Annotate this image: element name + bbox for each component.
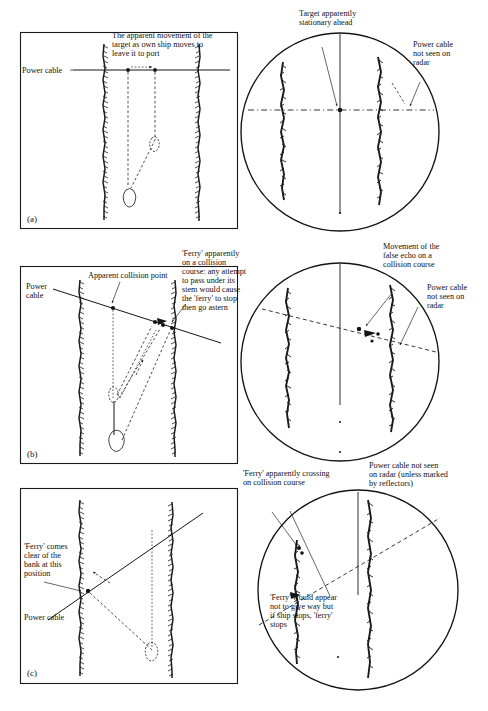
relative-track-a-2 [131, 72, 155, 188]
panel-a-plan-frame [21, 33, 238, 229]
panel-a-apparent-movement-label: The apparent movement of the target as o… [112, 31, 213, 58]
svg-text:stationary ahead: stationary ahead [299, 18, 352, 27]
svg-text:Movement of the: Movement of the [383, 242, 440, 251]
collision-point-echo-b [111, 306, 115, 310]
svg-text:false echo on a: false echo on a [383, 251, 432, 260]
svg-text:'Ferry' would appear: 'Ferry' would appear [270, 593, 337, 602]
panel-c-ferry-crossing-label: 'Ferry' apparently crossing on collision… [243, 469, 330, 487]
bank-right-a [198, 44, 200, 221]
echo-a-1 [126, 68, 130, 72]
panel-a-cable-not-seen-label: Power cable not seen on radar [413, 40, 454, 67]
panel-b-collision-point-label: Apparent collision point [88, 271, 168, 280]
svg-text:on a collision: on a collision [182, 258, 226, 267]
ferry-clear-leader-c [44, 582, 81, 591]
panel-c-plan-frame [21, 489, 238, 684]
power-cable-line-c [48, 513, 203, 620]
svg-text:by reflectors): by reflectors) [369, 479, 413, 488]
echo-b-3 [170, 326, 174, 330]
svg-text:cable: cable [26, 291, 44, 300]
panel-a-power-cable-label: Power cable [22, 66, 63, 75]
own-ship-a [123, 189, 136, 208]
radar-bank-right-c [368, 500, 371, 678]
radar-echo-b-2 [376, 332, 380, 336]
track-b-1 [117, 326, 152, 395]
track-b-3 [122, 331, 170, 440]
svg-text:position: position [24, 569, 50, 578]
svg-text:the 'ferry' to stop: the 'ferry' to stop [182, 294, 237, 303]
panel-b-letter: (b) [27, 449, 38, 459]
svg-text:then go astern: then go astern [182, 303, 228, 312]
svg-text:collision course: collision course [383, 260, 435, 269]
svg-text:not seen on: not seen on [413, 49, 450, 58]
bank-left-c [79, 500, 81, 676]
collision-point-leader-b [112, 282, 120, 303]
svg-text:clear of the: clear of the [24, 551, 61, 560]
svg-text:stops: stops [270, 620, 287, 629]
svg-text:Power cable: Power cable [413, 40, 454, 49]
own-ship-b [109, 430, 125, 451]
panel-c-letter: (c) [27, 668, 37, 678]
heading-end-a [339, 212, 341, 214]
svg-text:'Ferry' apparently crossing: 'Ferry' apparently crossing [243, 469, 330, 478]
svg-text:on collision course: on collision course [243, 478, 305, 487]
panel-c-power-cable-label: Power cable [24, 613, 65, 622]
panel-b-power-cable-label: Power cable [26, 282, 47, 300]
radar-cable-leader-b [400, 307, 418, 345]
panel-a: Power cable The apparent movement of the… [21, 9, 454, 231]
radar-echo-arrow-b [364, 330, 376, 337]
panel-c-ferry-clear-label: 'Ferry' comes clear of the bank at this … [24, 542, 68, 578]
movement-arrow-c [93, 572, 110, 583]
svg-text:on radar (unless marked: on radar (unless marked [369, 470, 448, 479]
radar-false-trace-a [392, 83, 405, 104]
radar-echo-c-2 [300, 551, 304, 555]
bank-left-b [79, 280, 81, 456]
svg-text:Target apparently: Target apparently [299, 9, 357, 18]
svg-text:radar: radar [427, 301, 444, 310]
track-c-1 [90, 593, 152, 650]
clear-of-bank-echo-c [86, 589, 90, 593]
panel-c: 'Ferry' comes clear of the bank at this … [21, 461, 459, 690]
panel-c-cable-not-seen-label: Power cable not seen on radar (unless ma… [369, 461, 448, 488]
radar-diagram: Power cable The apparent movement of the… [0, 0, 488, 711]
cable-label-leader-a [410, 82, 420, 106]
svg-text:The apparent movement of the: The apparent movement of the [112, 31, 213, 40]
svg-text:'Ferry' apparently: 'Ferry' apparently [182, 249, 240, 258]
svg-text:radar: radar [413, 58, 430, 67]
radar-echo-c-1 [297, 546, 301, 550]
radar-bank-right-a [378, 57, 381, 205]
panel-a-letter: (a) [27, 214, 37, 224]
bank-right-c [171, 502, 173, 678]
ferry-crossing-leader-c [272, 512, 297, 546]
svg-text:if ship stops, 'ferry': if ship stops, 'ferry' [270, 611, 333, 620]
heading-dot-b-1 [339, 421, 341, 423]
svg-text:not to give way but: not to give way but [270, 602, 334, 611]
track-b-4 [120, 330, 156, 398]
false-echo-leader-b [366, 293, 392, 326]
own-ship-c [145, 643, 158, 662]
echo-b-1 [153, 320, 157, 324]
svg-text:not seen on: not seen on [427, 292, 464, 301]
svg-text:Power: Power [26, 282, 47, 291]
radar-echo-b-3 [370, 339, 373, 342]
figure-canvas: Power cable The apparent movement of the… [0, 0, 488, 711]
heading-dot-b-2 [339, 451, 341, 453]
bank-right-b [174, 280, 176, 457]
panel-b-false-echo-label: Movement of the false echo on a collisio… [383, 242, 440, 269]
svg-text:Power cable not seen: Power cable not seen [369, 461, 438, 470]
radar-bank-left-a [281, 62, 284, 200]
panel-b-cable-not-seen-label: Power cable not seen on radar [427, 283, 468, 310]
svg-text:target as own ship moves to: target as own ship moves to [112, 40, 203, 49]
svg-text:bank at this: bank at this [24, 560, 62, 569]
svg-text:course: any attempt: course: any attempt [182, 267, 247, 276]
echo-a-2 [153, 68, 157, 72]
echo-b-2 [161, 323, 165, 327]
svg-text:leave it to port: leave it to port [112, 49, 160, 58]
svg-text:Power cable: Power cable [427, 283, 468, 292]
heading-dot-c [337, 656, 339, 658]
svg-text:to pass under its: to pass under its [182, 276, 235, 285]
panel-b: Power cable Apparent collision point 'Fe… [21, 242, 468, 464]
ghost-ship-a [150, 137, 160, 152]
radar-echo-a [338, 108, 343, 113]
svg-text:'Ferry' comes: 'Ferry' comes [24, 542, 68, 551]
panel-c-ferry-give-way-label: 'Ferry' would appear not to give way but… [270, 593, 337, 629]
